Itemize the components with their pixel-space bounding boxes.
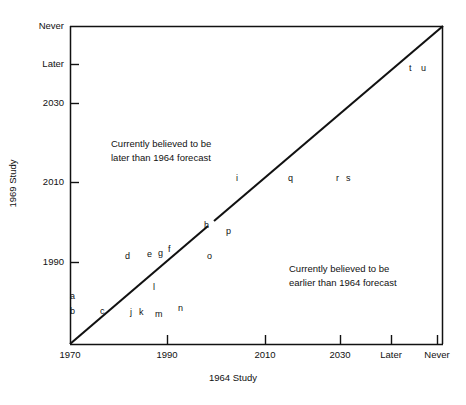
x-tick-marks bbox=[168, 335, 438, 344]
y-tick-label-2030: 2030 bbox=[16, 98, 64, 108]
upper-left-annotation-line2: later than 1964 forecast bbox=[111, 151, 211, 165]
x-tick-label-1990: 1990 bbox=[142, 350, 192, 360]
lower-right-annotation: Currently believed to be earlier than 19… bbox=[289, 262, 397, 290]
data-point-label-i: i bbox=[236, 174, 238, 183]
upper-left-annotation: Currently believed to be later than 1964… bbox=[111, 137, 211, 165]
data-point-label-g: g bbox=[158, 249, 163, 258]
identity-line-upper bbox=[214, 26, 443, 221]
data-point-label-d: d bbox=[125, 252, 130, 261]
data-point-label-f: f bbox=[168, 245, 171, 254]
data-point-label-e: e bbox=[147, 250, 152, 259]
data-point-label-n: n bbox=[178, 304, 183, 313]
data-point-label-l: l bbox=[153, 283, 155, 292]
data-point-label-b: b bbox=[70, 307, 75, 316]
plot-frame bbox=[70, 26, 443, 345]
data-point-label-p: p bbox=[226, 227, 231, 236]
x-tick-label-2010: 2010 bbox=[240, 350, 290, 360]
x-tick-label-1970: 1970 bbox=[45, 350, 95, 360]
y-tick-label-1990: 1990 bbox=[16, 257, 64, 267]
x-tick-label-later: Later bbox=[366, 350, 416, 360]
identity-line-lower bbox=[70, 226, 208, 344]
data-point-label-u: u bbox=[421, 64, 426, 73]
data-point-label-j: j bbox=[130, 308, 132, 317]
data-point-label-o: o bbox=[207, 252, 212, 261]
data-point-label-t: t bbox=[409, 64, 412, 73]
lower-right-annotation-line2: earlier than 1964 forecast bbox=[289, 276, 397, 290]
y-tick-marks bbox=[70, 65, 79, 263]
scatter-plot-figure: Never Later 2030 2010 1990 1970 1990 201… bbox=[0, 0, 466, 405]
y-axis-title: 1969 Study bbox=[7, 144, 18, 224]
x-tick-label-never: Never bbox=[412, 350, 462, 360]
data-point-label-c: c bbox=[100, 307, 105, 316]
plot-vector-layer bbox=[0, 0, 466, 405]
data-point-label-k: k bbox=[139, 308, 144, 317]
y-tick-label-2010: 2010 bbox=[16, 177, 64, 187]
data-point-label-m: m bbox=[155, 310, 163, 319]
data-point-label-q: q bbox=[288, 174, 293, 183]
lower-right-annotation-line1: Currently believed to be bbox=[289, 262, 397, 276]
data-point-label-s: s bbox=[346, 174, 351, 183]
data-point-label-r: r bbox=[336, 174, 339, 183]
x-tick-label-2030: 2030 bbox=[315, 350, 365, 360]
x-axis-title: 1964 Study bbox=[0, 372, 466, 383]
identity-reference-line bbox=[70, 26, 443, 344]
y-tick-label-never: Never bbox=[16, 21, 64, 31]
upper-left-annotation-line1: Currently believed to be bbox=[111, 137, 211, 151]
y-tick-label-later: Later bbox=[16, 59, 64, 69]
data-point-label-h: h bbox=[204, 221, 209, 230]
data-point-label-a: a bbox=[70, 292, 75, 301]
